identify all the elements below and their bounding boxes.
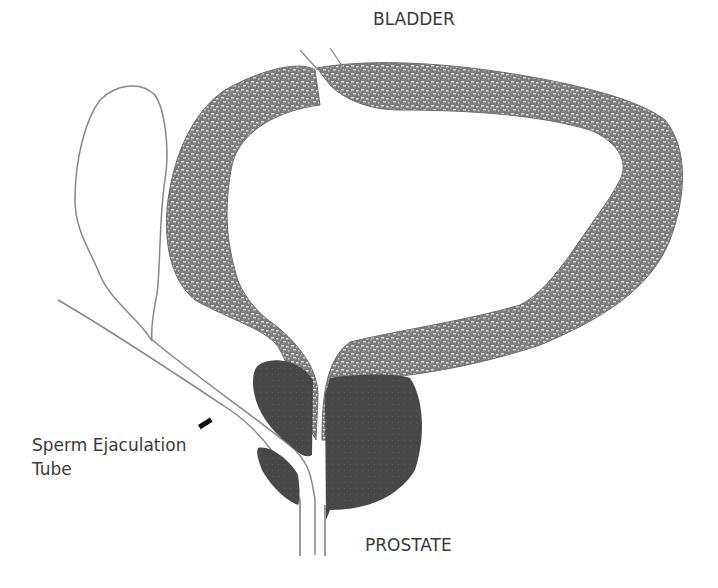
- pointer-marker: [198, 418, 213, 430]
- label-tube-line2: Tube: [32, 457, 232, 481]
- sperm-duct-upper: [58, 300, 300, 555]
- prostate-left-lobe: [253, 360, 313, 456]
- seminal-vesicle-outline: [75, 86, 167, 341]
- diagram-artwork: [0, 0, 718, 588]
- label-sperm-ejaculation-tube: Sperm Ejaculation Tube: [32, 433, 232, 481]
- label-prostate: PROSTATE: [365, 534, 452, 556]
- anatomy-diagram: BLADDER PROSTATE Sperm Ejaculation Tube: [0, 0, 718, 588]
- label-tube-line1: Sperm Ejaculation: [32, 433, 232, 457]
- prostate-left-lower: [257, 448, 299, 505]
- label-bladder: BLADDER: [373, 8, 455, 30]
- prostate-right-lobe: [325, 375, 422, 520]
